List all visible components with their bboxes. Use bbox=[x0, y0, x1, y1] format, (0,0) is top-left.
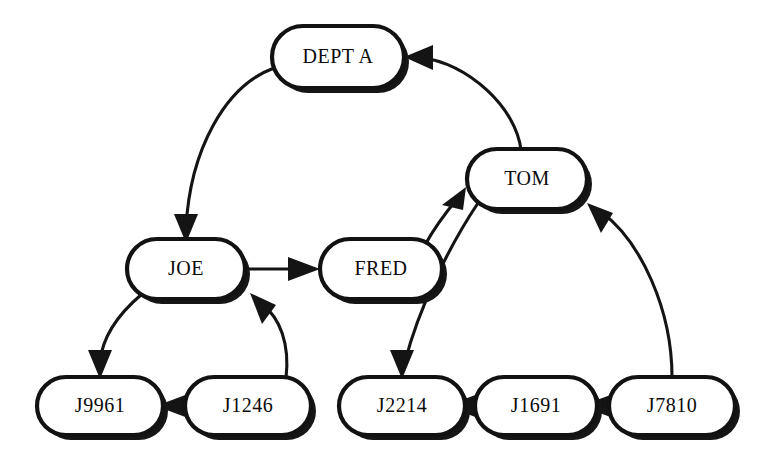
edge-fred-to-tom[interactable] bbox=[425, 187, 466, 245]
edge-joe-to-fred[interactable] bbox=[246, 257, 320, 281]
arrowhead-icon bbox=[442, 187, 466, 210]
node-label: JOE bbox=[168, 257, 204, 279]
node-label: FRED bbox=[354, 257, 407, 279]
arrowhead-icon bbox=[250, 293, 276, 324]
node-j9961[interactable]: J9961 bbox=[37, 377, 168, 440]
arrowhead-icon bbox=[288, 257, 320, 281]
node-tom[interactable]: TOM bbox=[467, 149, 592, 214]
edge-path bbox=[419, 57, 521, 150]
node-label: J7810 bbox=[647, 394, 697, 416]
node-joe[interactable]: JOE bbox=[127, 239, 250, 304]
arrowhead-icon bbox=[88, 350, 112, 379]
node-j2214[interactable]: J2214 bbox=[339, 377, 470, 440]
node-label: J2214 bbox=[377, 394, 427, 416]
node-j1691[interactable]: J1691 bbox=[475, 377, 602, 440]
edge-j1246-to-joe[interactable] bbox=[250, 293, 287, 378]
edge-dept-a-to-joe[interactable] bbox=[174, 68, 274, 243]
arrowhead-icon bbox=[390, 350, 414, 379]
edge-joe-to-j9961[interactable] bbox=[88, 294, 142, 379]
node-j7810[interactable]: J7810 bbox=[609, 377, 740, 440]
edge-path bbox=[601, 212, 672, 377]
diagram-canvas: DEPT A TOM JOE FRED bbox=[0, 0, 782, 471]
edge-j7810-to-tom[interactable] bbox=[587, 203, 672, 377]
arrowhead-icon bbox=[587, 203, 613, 233]
node-j1246[interactable]: J1246 bbox=[185, 377, 316, 440]
node-label: J9961 bbox=[75, 394, 125, 416]
node-label: TOM bbox=[504, 167, 550, 189]
node-fred[interactable]: FRED bbox=[320, 239, 447, 304]
node-label: J1691 bbox=[511, 394, 561, 416]
node-dept-a[interactable]: DEPT A bbox=[272, 26, 409, 93]
edge-layer bbox=[88, 45, 672, 418]
edge-path bbox=[186, 68, 274, 228]
diagram-svg: DEPT A TOM JOE FRED bbox=[0, 0, 782, 471]
node-layer: DEPT A TOM JOE FRED bbox=[37, 26, 740, 440]
node-label: J1246 bbox=[223, 394, 273, 416]
edge-tom-to-dept-a[interactable] bbox=[404, 45, 521, 150]
node-label: DEPT A bbox=[303, 45, 374, 67]
